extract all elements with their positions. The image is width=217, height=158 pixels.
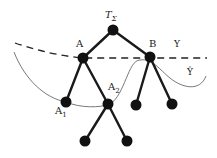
node-b2 <box>167 99 178 110</box>
node-a2b <box>122 136 133 147</box>
node-a <box>78 53 89 64</box>
label-a: A <box>76 39 83 49</box>
node-a2 <box>103 99 114 110</box>
thin-curve-y-hat <box>14 52 206 107</box>
label-b: B <box>149 39 156 49</box>
label-root: TΣ <box>105 10 117 23</box>
label-a2: A2 <box>108 82 120 95</box>
tree-diagram <box>0 0 217 158</box>
label-y: Y <box>174 40 180 49</box>
node-b <box>145 52 156 63</box>
label-a1: A1 <box>55 106 67 119</box>
node-b1 <box>131 100 142 111</box>
node-a2a <box>80 136 91 147</box>
node-root <box>108 25 119 36</box>
label-y-hat: Ŷ <box>187 68 193 77</box>
